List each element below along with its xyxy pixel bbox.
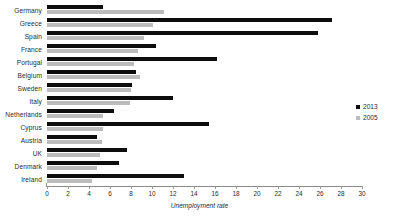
x-axis-tick-label: 26 bbox=[316, 190, 323, 197]
x-axis-tick-label: 0 bbox=[45, 190, 49, 197]
bar-row: France bbox=[47, 43, 362, 56]
bar-row: Portugal bbox=[47, 56, 362, 69]
x-axis-tick-label: 20 bbox=[253, 190, 260, 197]
bar-row: Netherlands bbox=[47, 108, 362, 121]
x-axis-tick-label: 8 bbox=[129, 190, 133, 197]
legend-swatch-icon bbox=[356, 105, 360, 109]
category-label: Cyprus bbox=[21, 121, 43, 134]
x-axis-tick-label: 10 bbox=[148, 190, 155, 197]
bar-row: Germany bbox=[47, 4, 362, 17]
category-label: Greece bbox=[20, 17, 42, 30]
bar-2013 bbox=[47, 122, 209, 126]
bar-row: UK bbox=[47, 147, 362, 160]
x-axis-tick-label: 16 bbox=[211, 190, 218, 197]
bar-2013 bbox=[47, 31, 318, 35]
x-axis-tick bbox=[173, 186, 174, 189]
bar-2013 bbox=[47, 44, 156, 48]
category-label: Italy bbox=[29, 95, 42, 108]
bar-2005 bbox=[47, 179, 92, 183]
legend-item: 2013 bbox=[356, 101, 378, 112]
bar-2005 bbox=[47, 127, 103, 131]
x-axis-tick bbox=[278, 186, 279, 189]
bar-2013 bbox=[47, 135, 97, 139]
legend-swatch-icon bbox=[356, 116, 360, 120]
x-axis-tick-label: 28 bbox=[337, 190, 344, 197]
x-axis-tick bbox=[194, 186, 195, 189]
category-label: Denmark bbox=[15, 160, 42, 173]
x-axis-tick-label: 22 bbox=[274, 190, 281, 197]
bar-2005 bbox=[47, 140, 102, 144]
x-axis-line bbox=[47, 186, 363, 187]
bar-row: Spain bbox=[47, 30, 362, 43]
x-axis-tick-label: 30 bbox=[358, 190, 365, 197]
category-label: Spain bbox=[25, 30, 42, 43]
x-axis-tick bbox=[47, 186, 48, 189]
bar-2013 bbox=[47, 109, 114, 113]
bar-2013 bbox=[47, 148, 127, 152]
bar-row: Ireland bbox=[47, 173, 362, 186]
category-label: UK bbox=[33, 147, 42, 160]
x-axis-tick bbox=[89, 186, 90, 189]
bar-2005 bbox=[47, 36, 144, 40]
x-axis-tick-label: 12 bbox=[169, 190, 176, 197]
bar-2005 bbox=[47, 10, 164, 14]
x-axis-tick bbox=[68, 186, 69, 189]
bar-row: Belgium bbox=[47, 69, 362, 82]
x-axis-tick-label: 6 bbox=[108, 190, 112, 197]
bar-2005 bbox=[47, 23, 153, 27]
x-axis-tick bbox=[320, 186, 321, 189]
x-axis-tick-label: 2 bbox=[66, 190, 70, 197]
category-label: Netherlands bbox=[5, 108, 42, 121]
x-axis-tick bbox=[110, 186, 111, 189]
bar-row: Greece bbox=[47, 17, 362, 30]
bar-2005 bbox=[47, 101, 130, 105]
bar-2013 bbox=[47, 161, 119, 165]
bar-row: Cyprus bbox=[47, 121, 362, 134]
category-label: Germany bbox=[14, 4, 42, 17]
bar-row: Sweden bbox=[47, 82, 362, 95]
legend-label: 2005 bbox=[363, 114, 378, 121]
x-axis-tick-label: 4 bbox=[87, 190, 91, 197]
bar-2005 bbox=[47, 75, 140, 79]
plot-area: GermanyGreeceSpainFrancePortugalBelgiumS… bbox=[47, 4, 362, 186]
bar-2005 bbox=[47, 166, 97, 170]
bar-2005 bbox=[47, 153, 100, 157]
bar-2013 bbox=[47, 18, 332, 22]
category-label: Portugal bbox=[17, 56, 42, 69]
bar-2005 bbox=[47, 114, 103, 118]
x-axis-tick bbox=[215, 186, 216, 189]
bar-2013 bbox=[47, 70, 136, 74]
x-axis-tick bbox=[152, 186, 153, 189]
bar-2005 bbox=[47, 62, 134, 66]
bar-2013 bbox=[47, 57, 217, 61]
category-label: France bbox=[21, 43, 42, 56]
x-axis-tick bbox=[341, 186, 342, 189]
chart-legend: 20132005 bbox=[356, 101, 378, 123]
bar-2005 bbox=[47, 88, 131, 92]
x-axis-tick bbox=[236, 186, 237, 189]
bar-2013 bbox=[47, 5, 103, 9]
bar-2013 bbox=[47, 83, 132, 87]
category-label: Austria bbox=[21, 134, 42, 147]
unemployment-bar-chart: GermanyGreeceSpainFrancePortugalBelgiumS… bbox=[0, 0, 399, 217]
category-label: Sweden bbox=[18, 82, 42, 95]
x-axis-tick bbox=[257, 186, 258, 189]
bar-row: Italy bbox=[47, 95, 362, 108]
bar-2005 bbox=[47, 49, 138, 53]
category-label: Ireland bbox=[21, 173, 42, 186]
x-axis-tick-label: 14 bbox=[190, 190, 197, 197]
bar-row: Austria bbox=[47, 134, 362, 147]
bar-row: Denmark bbox=[47, 160, 362, 173]
legend-item: 2005 bbox=[356, 112, 378, 123]
bar-2013 bbox=[47, 96, 173, 100]
x-axis-title: Unemployment rate bbox=[0, 202, 399, 209]
legend-label: 2013 bbox=[363, 103, 378, 110]
x-axis-tick bbox=[131, 186, 132, 189]
x-axis-tick bbox=[299, 186, 300, 189]
category-label: Belgium bbox=[17, 69, 42, 82]
bar-2013 bbox=[47, 174, 184, 178]
x-axis-tick-label: 18 bbox=[232, 190, 239, 197]
x-axis-tick bbox=[362, 186, 363, 189]
x-axis-tick-label: 24 bbox=[295, 190, 302, 197]
